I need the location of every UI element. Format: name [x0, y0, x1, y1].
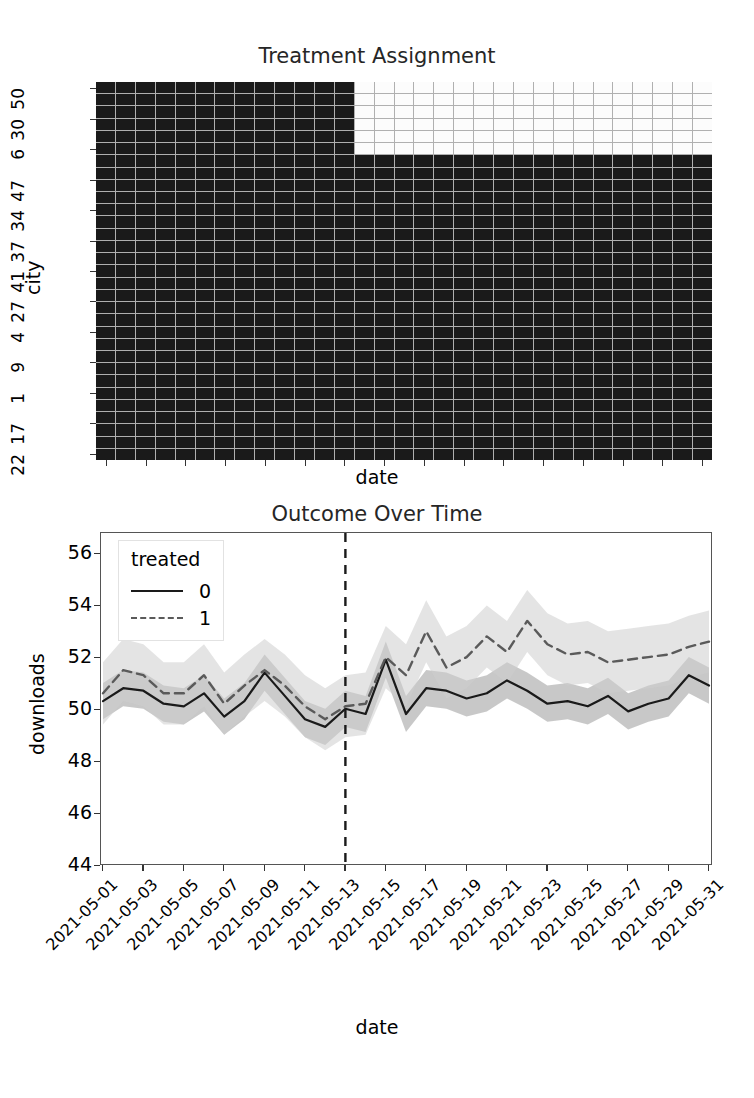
- heatmap-cell: [395, 388, 414, 399]
- heatmap-cell: [96, 327, 115, 338]
- heatmap-cell: [653, 204, 672, 215]
- legend-entry-group: 01: [131, 577, 211, 631]
- heatmap-cell: [554, 180, 573, 191]
- heatmap-cell: [414, 119, 433, 130]
- heatmap-cell: [454, 106, 473, 117]
- heatmap-cell: [613, 437, 632, 448]
- heatmap-cell: [514, 155, 533, 166]
- heatmap-cell: [96, 119, 115, 130]
- heatmap-cell: [235, 351, 254, 362]
- heatmap-cell: [534, 94, 553, 105]
- heatmap-cell: [176, 265, 195, 276]
- heatmap-cell: [613, 327, 632, 338]
- heatmap-cell: [395, 278, 414, 289]
- heatmap-x-tick-mark: [344, 460, 345, 466]
- heatmap-cell: [434, 449, 453, 460]
- heatmap-cell: [454, 265, 473, 276]
- heatmap-cell: [235, 216, 254, 227]
- heatmap-y-tick-label: 37: [8, 241, 28, 263]
- heatmap-cell: [295, 290, 314, 301]
- heatmap-cell: [494, 449, 513, 460]
- heatmap-cell: [215, 131, 234, 142]
- heatmap-cell: [454, 400, 473, 411]
- heatmap-cell: [156, 400, 175, 411]
- heatmap-y-tick-label: 41: [8, 271, 28, 293]
- heatmap-cell: [673, 119, 692, 130]
- heatmap-cell: [275, 449, 294, 460]
- heatmap-cell: [594, 290, 613, 301]
- heatmap-cell: [235, 106, 254, 117]
- heatmap-cell: [594, 155, 613, 166]
- heatmap-cell: [196, 314, 215, 325]
- heatmap-cell: [414, 143, 433, 154]
- heatmap-cell: [255, 143, 274, 154]
- heatmap-cell: [395, 143, 414, 154]
- heatmap-cell: [395, 216, 414, 227]
- line-x-tick-mark: [344, 865, 345, 871]
- heatmap-cell: [474, 278, 493, 289]
- heatmap-cell: [156, 204, 175, 215]
- heatmap-cell: [196, 302, 215, 313]
- heatmap-cell: [136, 82, 155, 93]
- heatmap-cell: [375, 278, 394, 289]
- heatmap-cell: [375, 229, 394, 240]
- heatmap-y-tick-label: 6: [8, 149, 28, 160]
- heatmap-cell: [176, 351, 195, 362]
- heatmap-cell: [474, 180, 493, 191]
- heatmap-cell: [355, 314, 374, 325]
- heatmap-cell: [494, 119, 513, 130]
- heatmap-cell: [434, 437, 453, 448]
- heatmap-cell: [534, 327, 553, 338]
- heatmap-cell: [633, 375, 652, 386]
- heatmap-cell: [613, 302, 632, 313]
- heatmap-cell: [414, 412, 433, 423]
- line-y-tick-label: 56: [68, 541, 92, 563]
- heatmap-title: Treatment Assignment: [0, 44, 754, 68]
- heatmap-cell: [196, 131, 215, 142]
- heatmap-cell: [554, 412, 573, 423]
- heatmap-cell: [255, 82, 274, 93]
- heatmap-cell: [594, 339, 613, 350]
- heatmap-cell: [454, 253, 473, 264]
- heatmap-cell: [215, 314, 234, 325]
- heatmap-cell: [554, 143, 573, 154]
- heatmap-cell: [156, 302, 175, 313]
- heatmap-cell: [96, 253, 115, 264]
- heatmap-cell: [693, 351, 712, 362]
- heatmap-cell: [653, 168, 672, 179]
- heatmap-cell: [275, 204, 294, 215]
- heatmap-cell: [395, 400, 414, 411]
- heatmap-cell: [116, 204, 135, 215]
- heatmap-cell: [574, 155, 593, 166]
- heatmap-cell: [255, 400, 274, 411]
- heatmap-cell: [594, 192, 613, 203]
- heatmap-cell: [295, 363, 314, 374]
- heatmap-cell: [215, 424, 234, 435]
- heatmap-cell: [414, 204, 433, 215]
- heatmap-cell: [395, 412, 414, 423]
- heatmap-cell: [673, 265, 692, 276]
- heatmap-cell: [554, 339, 573, 350]
- heatmap-cell: [215, 339, 234, 350]
- heatmap-cell: [255, 216, 274, 227]
- heatmap-cell: [494, 278, 513, 289]
- heatmap-cell: [534, 400, 553, 411]
- heatmap-cell: [514, 192, 533, 203]
- heatmap-cell: [315, 94, 334, 105]
- heatmap-cell: [613, 400, 632, 411]
- heatmap-cell: [136, 216, 155, 227]
- heatmap-cell: [414, 375, 433, 386]
- heatmap-cell: [414, 265, 433, 276]
- heatmap-cell: [693, 437, 712, 448]
- line-y-tick-mark: [94, 709, 100, 710]
- heatmap-cell: [613, 253, 632, 264]
- heatmap-cell: [434, 143, 453, 154]
- heatmap-cell: [514, 327, 533, 338]
- heatmap-cell: [574, 241, 593, 252]
- heatmap-cell: [633, 131, 652, 142]
- heatmap-cell: [554, 449, 573, 460]
- heatmap-cell: [594, 253, 613, 264]
- heatmap-cell: [116, 192, 135, 203]
- heatmap-cell: [594, 94, 613, 105]
- heatmap-cell: [96, 375, 115, 386]
